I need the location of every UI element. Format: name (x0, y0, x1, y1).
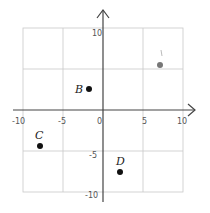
y-tick-10: 10 (92, 29, 102, 38)
x-tick-m10: -10 (12, 117, 25, 126)
coordinate-plane: -10 -5 0 5 10 10 -5 -10 B C D (0, 0, 210, 213)
point-b-label: B (74, 83, 83, 96)
y-tick-m5: -5 (89, 151, 97, 160)
x-tick-5: 5 (142, 117, 147, 126)
point-b (86, 86, 92, 92)
point-a-label-mark (161, 50, 162, 56)
axes (13, 10, 195, 202)
point-c (37, 143, 43, 149)
point-d-label: D (115, 155, 125, 168)
x-tick-10: 10 (177, 117, 187, 126)
x-tick-0: 0 (97, 117, 102, 126)
x-tick-m5: -5 (58, 117, 66, 126)
point-c-label: C (35, 129, 44, 142)
y-tick-m10: -10 (85, 191, 98, 200)
point-d (117, 169, 123, 175)
point-a (157, 62, 163, 68)
